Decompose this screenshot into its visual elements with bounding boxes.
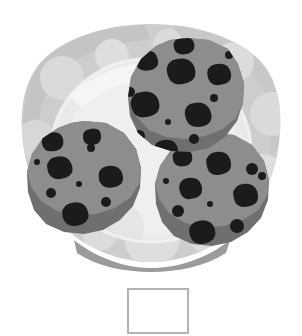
caption-box[interactable] xyxy=(127,288,189,334)
chocolate-chip xyxy=(99,166,124,188)
chocolate-chip xyxy=(165,119,171,125)
chocolate-chip xyxy=(246,163,258,175)
chocolate-chip xyxy=(189,134,199,144)
chocolate-chip xyxy=(62,202,88,226)
illustration-canvas xyxy=(0,0,302,336)
chocolate-chip xyxy=(46,188,56,198)
chocolate-chip xyxy=(207,201,213,207)
chocolate-chip xyxy=(83,129,101,146)
chocolate-chip xyxy=(34,159,40,165)
chocolate-chip xyxy=(131,91,160,117)
chocolate-chip xyxy=(87,144,95,152)
chocolate-chip xyxy=(210,94,218,102)
chocolate-chip xyxy=(189,220,215,244)
chocolate-chip xyxy=(230,219,244,233)
chocolate-chip xyxy=(233,184,258,207)
chocolate-chip xyxy=(163,178,169,184)
chocolate-chip xyxy=(206,152,231,175)
chocolate-chip xyxy=(76,181,82,187)
chocolate-chip xyxy=(47,156,72,179)
chocolate-chip xyxy=(101,197,111,207)
caption-box-text xyxy=(129,290,187,332)
cookies-on-plate-illustration xyxy=(0,0,302,336)
chocolate-chip xyxy=(174,37,195,54)
chocolate-chip xyxy=(172,205,184,217)
chocolate-chip xyxy=(207,64,231,85)
chocolate-chip xyxy=(179,178,202,199)
chocolate-chip xyxy=(258,172,266,180)
chocolate-chip xyxy=(167,58,196,84)
